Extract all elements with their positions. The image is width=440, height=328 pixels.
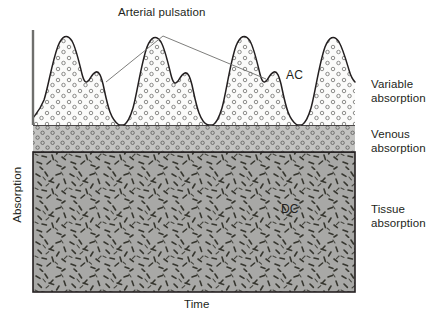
figure-pulse-oximetry-absorption: Arterial pulsation Variable absorption V… [0,0,440,328]
callout-arterial-pulsation: Arterial pulsation [118,6,205,20]
band-label-venous-absorption: Venous absorption [371,128,426,155]
y-axis-label: Absorption [11,155,25,235]
band-label-variable-absorption: Variable absorption [371,78,426,105]
annotation-ac: AC [286,68,303,82]
diagram-canvas [0,0,440,328]
band-variable-absorption [33,28,355,126]
band-tissue-absorption [33,152,355,292]
annotation-dc: DC [281,202,299,216]
band-venous-absorption [33,125,355,152]
x-axis-label: Time [184,298,210,312]
band-label-tissue-absorption: Tissue absorption [371,203,426,230]
